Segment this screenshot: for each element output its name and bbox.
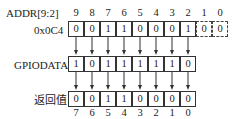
down-arrow-icon <box>106 72 110 90</box>
down-arrow-icon <box>154 72 158 90</box>
down-arrow-icon <box>122 72 126 90</box>
down-arrow-icon <box>122 37 126 55</box>
down-arrow-icon <box>170 37 174 55</box>
down-arrow-icon <box>90 37 94 55</box>
down-arrow-icon <box>90 72 94 90</box>
down-arrow-icon <box>154 37 158 55</box>
down-arrow-icon <box>186 37 190 55</box>
down-arrow-icon <box>74 72 78 90</box>
down-arrow-icon <box>138 72 142 90</box>
arrows-layer <box>0 0 238 119</box>
down-arrow-icon <box>138 37 142 55</box>
down-arrow-icon <box>106 37 110 55</box>
down-arrow-icon <box>186 72 190 90</box>
down-arrow-icon <box>170 72 174 90</box>
down-arrow-icon <box>74 37 78 55</box>
